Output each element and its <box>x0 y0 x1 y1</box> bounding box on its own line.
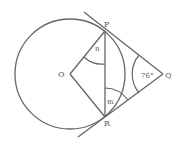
angle-arc-n <box>84 57 105 64</box>
label-point-o: O <box>58 70 65 79</box>
label-angle-76: 76° <box>141 72 153 80</box>
diagram-canvas: O P R Q n m 76° <box>0 0 173 141</box>
geometry-diagram: O P R Q n m 76° <box>0 0 173 141</box>
radius-or <box>70 74 105 117</box>
tangent-line-rq <box>78 74 163 137</box>
label-angle-m: m <box>107 98 114 106</box>
label-angle-n: n <box>95 45 100 53</box>
label-point-p: P <box>104 20 110 29</box>
radius-op <box>70 31 105 74</box>
label-point-q: Q <box>165 71 172 80</box>
angle-arc-q <box>132 55 139 93</box>
label-point-r: R <box>104 119 111 128</box>
